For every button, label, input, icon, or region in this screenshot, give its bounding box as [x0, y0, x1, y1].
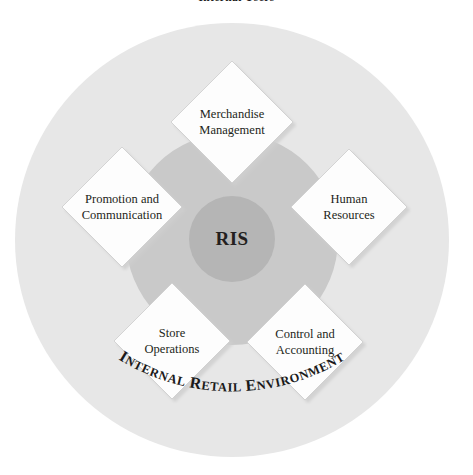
center-label-ris: RIS: [182, 228, 282, 250]
diagram-root: Internal Users: [0, 0, 473, 475]
